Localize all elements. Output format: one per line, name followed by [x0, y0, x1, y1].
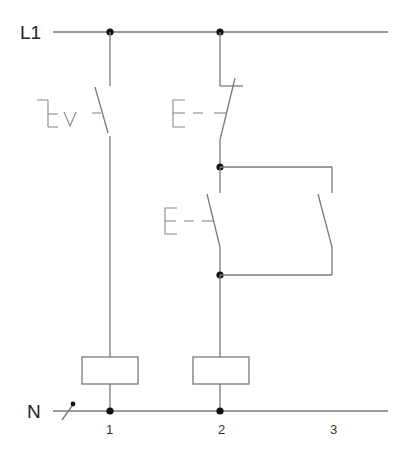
rotary-switch-icon [37, 87, 110, 357]
rail-label-l1: L1 [20, 22, 41, 43]
rung-number-1: 1 [106, 422, 113, 437]
coil-2-icon [193, 357, 249, 384]
ladder-diagram: L1 [0, 0, 419, 457]
rung-number-2: 2 [218, 422, 225, 437]
rung-number-3: 3 [330, 422, 337, 437]
no-pushbutton-icon [165, 194, 220, 272]
rung-1 [37, 32, 138, 411]
node-n-rung2 [216, 407, 223, 414]
nc-pushbutton-icon [173, 78, 243, 166]
node-n-rung1 [106, 407, 113, 414]
self-holding-contact-icon [318, 167, 332, 275]
rung-2 [165, 32, 332, 411]
coil-1-icon [82, 357, 138, 384]
rail-label-n: N [27, 401, 41, 422]
